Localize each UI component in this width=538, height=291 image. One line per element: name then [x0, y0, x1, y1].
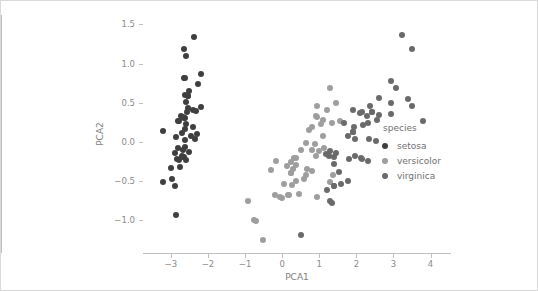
legend-item-setosa[interactable]: setosa [382, 138, 492, 153]
legend-item-versicolor[interactable]: versicolor [382, 153, 492, 168]
scatter-point-versicolor [285, 192, 291, 198]
scatter-point-versicolor [309, 124, 315, 130]
x-tick-mark [393, 254, 394, 258]
scatter-point-versicolor [290, 166, 296, 172]
scatter-point-versicolor [293, 178, 299, 184]
scatter-point-setosa [183, 99, 189, 105]
scatter-point-versicolor [309, 147, 315, 153]
scatter-point-setosa [160, 128, 166, 134]
legend-title: species [382, 123, 492, 133]
scatter-point-virginica [298, 232, 304, 238]
scatter-point-virginica [369, 109, 375, 115]
scatter-point-virginica [409, 46, 415, 52]
scatter-point-versicolor [281, 181, 287, 187]
scatter-point-setosa [181, 46, 187, 52]
legend-marker-icon [382, 173, 388, 179]
x-tick-label: −3 [165, 259, 178, 269]
legend: species setosaversicolorvirginica [382, 123, 492, 183]
scatter-point-setosa [198, 104, 204, 110]
scatter-point-virginica [359, 156, 365, 162]
scatter-point-setosa [190, 107, 196, 113]
x-axis-spine [143, 253, 451, 254]
legend-item-virginica[interactable]: virginica [382, 168, 492, 183]
scatter-point-virginica [323, 151, 329, 157]
x-tick-label: −2 [202, 259, 215, 269]
scatter-point-virginica [388, 111, 394, 117]
scatter-point-versicolor [318, 121, 324, 127]
scatter-point-versicolor [273, 158, 279, 164]
x-tick-mark [245, 254, 246, 258]
scatter-point-setosa [176, 118, 182, 124]
scatter-point-virginica [345, 178, 351, 184]
scatter-point-versicolor [333, 100, 339, 106]
scatter-point-virginica [399, 32, 405, 38]
legend-marker-icon [382, 158, 388, 164]
scatter-point-setosa [191, 34, 197, 40]
x-axis-label: PCA1 [143, 272, 451, 282]
x-tick-mark [356, 254, 357, 258]
y-axis-label: PCA2 [95, 122, 105, 146]
scatter-point-virginica [393, 85, 399, 91]
scatter-point-virginica [324, 187, 330, 193]
scatter-point-setosa [173, 134, 179, 140]
scatter-point-virginica [336, 169, 342, 175]
scatter-point-setosa [185, 93, 191, 99]
x-tick-label: −1 [239, 259, 252, 269]
scatter-point-virginica [350, 107, 356, 113]
x-tick-label: 3 [391, 259, 396, 269]
scatter-point-versicolor [309, 168, 315, 174]
scatter-point-versicolor [313, 153, 319, 159]
scatter-point-virginica [365, 120, 371, 126]
scatter-point-setosa [173, 212, 179, 218]
y-tick-label: −1.0 [114, 215, 135, 225]
scatter-point-virginica [357, 110, 363, 116]
scatter-point-versicolor [303, 140, 309, 146]
scatter-point-virginica [374, 117, 380, 123]
y-tick-label: 0.0 [121, 137, 135, 147]
scatter-point-versicolor [296, 191, 302, 197]
y-axis-spine [1, 15, 2, 253]
scatter-point-versicolor [321, 145, 327, 151]
scatter-point-versicolor [324, 107, 330, 113]
scatter-point-virginica [331, 183, 337, 189]
scatter-point-virginica [373, 138, 379, 144]
scatter-point-versicolor [298, 147, 304, 153]
scatter-point-setosa [190, 124, 196, 130]
scatter-point-setosa [182, 137, 188, 143]
scatter-point-virginica [333, 150, 339, 156]
scatter-point-virginica [346, 156, 352, 162]
scatter-point-setosa [177, 164, 183, 170]
scatter-point-virginica [331, 161, 337, 167]
scatter-point-setosa [198, 71, 204, 77]
legend-item-label: versicolor [397, 156, 441, 166]
scatter-point-setosa [169, 176, 175, 182]
scatter-point-setosa [183, 53, 189, 59]
scatter-point-versicolor [320, 133, 326, 139]
scatter-point-versicolor [329, 120, 335, 126]
scatter-point-versicolor [327, 85, 333, 91]
scatter-point-virginica [366, 136, 372, 142]
legend-entries: setosaversicolorvirginica [382, 138, 492, 183]
scatter-point-setosa [160, 179, 166, 185]
scatter-point-setosa [195, 81, 201, 87]
scatter-point-versicolor [301, 176, 307, 182]
figure-container: −3−2−101234−1.0−0.50.00.51.01.5 PCA1 PCA… [0, 0, 538, 291]
scatter-point-virginica [376, 95, 382, 101]
scatter-point-virginica [409, 103, 415, 109]
x-tick-mark [208, 254, 209, 258]
scatter-point-versicolor [314, 194, 320, 200]
scatter-point-versicolor [313, 113, 319, 119]
y-tick-label: 0.5 [121, 98, 135, 108]
scatter-point-virginica [367, 103, 373, 109]
x-tick-mark [431, 254, 432, 258]
scatter-point-versicolor [272, 192, 278, 198]
scatter-point-setosa [172, 183, 178, 189]
scatter-point-virginica [327, 198, 333, 204]
scatter-point-virginica [388, 100, 394, 106]
scatter-point-versicolor [245, 198, 251, 204]
scatter-point-versicolor [312, 141, 318, 147]
scatter-point-setosa [181, 75, 187, 81]
scatter-point-setosa [182, 144, 188, 150]
scatter-point-virginica [365, 158, 371, 164]
scatter-point-virginica [341, 120, 347, 126]
